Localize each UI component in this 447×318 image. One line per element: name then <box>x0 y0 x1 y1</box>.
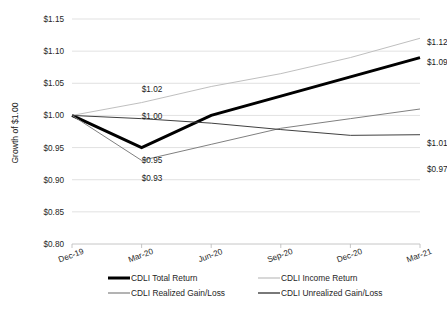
data-label: $1.00 <box>142 112 163 121</box>
y-axis-tick-label: $0.80 <box>44 240 65 249</box>
x-axis-tick-label: Mar-21 <box>405 247 433 264</box>
y-axis-tick-label: $0.85 <box>44 208 65 217</box>
y-axis-title: Growth of $1.00 <box>10 102 20 163</box>
data-label: $1.02 <box>142 85 163 94</box>
data-point-labels: $1.02$1.00$0.95$0.93$1.12$1.09$1.01$0.97 <box>142 38 447 183</box>
x-axis-tick-label: Dec-19 <box>57 247 85 265</box>
legend-label: CDLI Income Return <box>281 273 358 283</box>
x-axis-tick-label: Jun-20 <box>197 247 224 264</box>
growth-of-dollar-line-chart: $0.80$0.85$0.90$0.95$1.00$1.05$1.10$1.15… <box>0 0 447 318</box>
data-label: $0.93 <box>142 174 163 183</box>
y-axis-tick-label: $1.05 <box>44 79 65 88</box>
series-line-cdli-unrealized-gain-loss <box>72 115 420 135</box>
legend-label: CDLI Total Return <box>131 273 198 283</box>
data-label: $1.09 <box>427 58 447 67</box>
y-axis-tick-label: $1.00 <box>44 111 65 120</box>
legend-label: CDLI Unrealized Gain/Loss <box>281 288 382 298</box>
data-label: $0.95 <box>142 156 163 165</box>
y-axis-tick-label: $0.95 <box>44 144 65 153</box>
series-line-cdli-total-return <box>72 58 420 148</box>
y-axis-tick-labels: $0.80$0.85$0.90$0.95$1.00$1.05$1.10$1.15 <box>44 15 65 249</box>
x-axis-tick-labels: Dec-19Mar-20Jun-20Sep-20Dec-20Mar-21 <box>57 247 433 265</box>
chart-canvas: $0.80$0.85$0.90$0.95$1.00$1.05$1.10$1.15… <box>0 0 447 318</box>
data-label: $1.01 <box>427 139 447 148</box>
y-axis-tick-label: $1.15 <box>44 15 65 24</box>
y-axis-tick-label: $1.10 <box>44 47 65 56</box>
y-axis-tick-label: $0.90 <box>44 176 65 185</box>
data-label: $1.12 <box>427 38 447 47</box>
series-line-cdli-income-return <box>72 38 420 115</box>
x-axis-tick-label: Dec-20 <box>336 247 364 265</box>
series-lines <box>72 38 420 160</box>
x-axis-tick-label: Sep-20 <box>266 247 294 265</box>
legend-label: CDLI Realized Gain/Loss <box>131 288 225 298</box>
chart-legend: CDLI Total ReturnCDLI Income ReturnCDLI … <box>108 273 382 298</box>
x-axis-tick-marks <box>72 244 420 248</box>
x-axis-tick-label: Mar-20 <box>127 247 155 264</box>
data-label: $0.97 <box>427 165 447 174</box>
